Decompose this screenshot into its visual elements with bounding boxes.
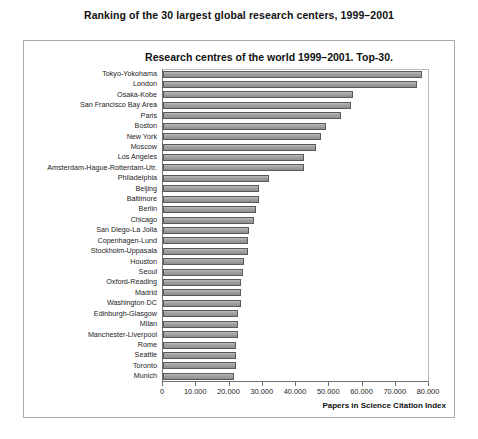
- x-tick-mark: [395, 382, 396, 386]
- page-title: Ranking of the 30 largest global researc…: [0, 9, 478, 21]
- category-label: Edinburgh-Glasgow: [24, 309, 160, 319]
- bar-row: [163, 132, 429, 142]
- bar-row: [163, 111, 429, 121]
- x-tick-label: 80.000: [417, 387, 440, 396]
- category-label: Beijing: [24, 184, 160, 194]
- bar: [163, 112, 341, 119]
- bar-row: [163, 246, 429, 256]
- x-tick-mark: [428, 382, 429, 386]
- bar-row: [163, 194, 429, 204]
- bar-row: [163, 69, 429, 79]
- bar-row: [163, 371, 429, 381]
- category-label: Moscow: [24, 142, 160, 152]
- bar-row: [163, 340, 429, 350]
- category-label: Stockholm-Uppasala: [24, 246, 160, 256]
- bar: [163, 133, 321, 140]
- bar-row: [163, 142, 429, 152]
- category-label: Manchester-Liverpool: [24, 330, 160, 340]
- bar-row: [163, 100, 429, 110]
- y-axis-category-labels: Tokyo-YokohamaLondonOsaka-KobeSan Franci…: [24, 69, 160, 382]
- bar: [163, 123, 326, 130]
- bar: [163, 185, 259, 192]
- category-label: Toronto: [24, 361, 160, 371]
- category-label: Madrid: [24, 288, 160, 298]
- bar-row: [163, 330, 429, 340]
- bar: [163, 342, 236, 349]
- bar: [163, 362, 236, 369]
- x-axis-title: Papers in Science Citation Index: [322, 401, 446, 410]
- bar-row: [163, 163, 429, 173]
- bar-row: [163, 267, 429, 277]
- bar-row: [163, 288, 429, 298]
- bar: [163, 237, 248, 244]
- category-label: Milan: [24, 319, 160, 329]
- x-tick-label: 0: [160, 387, 164, 396]
- x-tick-mark: [229, 382, 230, 386]
- x-tick-mark: [362, 382, 363, 386]
- bar: [163, 352, 236, 359]
- category-label: San Francisco Bay Area: [24, 100, 160, 110]
- x-tick-label: 60.000: [350, 387, 373, 396]
- bar: [163, 258, 244, 265]
- bar: [163, 248, 248, 255]
- x-tick-label: 20.000: [217, 387, 240, 396]
- bar-row: [163, 204, 429, 214]
- x-tick-label: 70.000: [383, 387, 406, 396]
- bar: [163, 91, 353, 98]
- bar: [163, 102, 351, 109]
- bar: [163, 206, 256, 213]
- bar: [163, 217, 254, 224]
- bar-row: [163, 277, 429, 287]
- bar-row: [163, 79, 429, 89]
- bar: [163, 331, 238, 338]
- category-label: Tokyo-Yokohama: [24, 69, 160, 79]
- category-label: Boston: [24, 121, 160, 131]
- bar-row: [163, 225, 429, 235]
- bar-row: [163, 361, 429, 371]
- chart-title: Research centres of the world 1999–2001.…: [24, 51, 456, 63]
- category-label: Munich: [24, 371, 160, 381]
- category-label: Los Angeles: [24, 152, 160, 162]
- category-label: Rome: [24, 340, 160, 350]
- bar-row: [163, 121, 429, 131]
- bar-row: [163, 257, 429, 267]
- bar: [163, 81, 417, 88]
- bar-row: [163, 298, 429, 308]
- category-label: Washington DC: [24, 298, 160, 308]
- bar: [163, 227, 249, 234]
- chart-container: Research centres of the world 1999–2001.…: [23, 40, 455, 418]
- category-label: Chicago: [24, 215, 160, 225]
- category-label: Osaka-Kobe: [24, 90, 160, 100]
- category-label: Oxford-Reading: [24, 277, 160, 287]
- x-tick-mark: [162, 382, 163, 386]
- bar: [163, 144, 316, 151]
- x-tick-mark: [295, 382, 296, 386]
- x-tick-mark: [328, 382, 329, 386]
- x-tick-label: 30.000: [250, 387, 273, 396]
- category-label: Baltimore: [24, 194, 160, 204]
- category-label: Copenhagen-Lund: [24, 236, 160, 246]
- bar: [163, 196, 259, 203]
- category-label: Houston: [24, 257, 160, 267]
- x-tick-label: 50.000: [317, 387, 340, 396]
- category-label: Seoul: [24, 267, 160, 277]
- x-tick-mark: [195, 382, 196, 386]
- bar-row: [163, 319, 429, 329]
- x-tick-mark: [262, 382, 263, 386]
- bar: [163, 175, 269, 182]
- x-tick-label: 10.000: [184, 387, 207, 396]
- bar-row: [163, 152, 429, 162]
- bar: [163, 289, 241, 296]
- x-tick-label: 40.000: [284, 387, 307, 396]
- category-label: Amsterdam-Hague-Rotterdam-Utr.: [24, 163, 160, 173]
- bar-row: [163, 173, 429, 183]
- bar-row: [163, 215, 429, 225]
- bar-row: [163, 309, 429, 319]
- category-label: San Diego-La Jolla: [24, 225, 160, 235]
- bar: [163, 310, 238, 317]
- bar: [163, 154, 304, 161]
- category-label: Paris: [24, 111, 160, 121]
- category-label: London: [24, 79, 160, 89]
- bar: [163, 321, 238, 328]
- bar-row: [163, 236, 429, 246]
